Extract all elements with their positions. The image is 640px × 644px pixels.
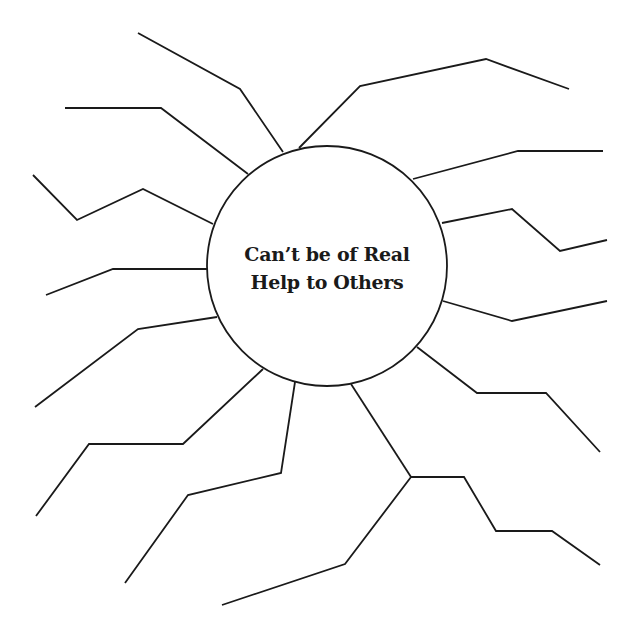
center-topic-line-1: Can’t be of Real xyxy=(207,240,447,268)
leg-left-1 xyxy=(33,175,213,224)
spider-map-diagram xyxy=(0,0,640,644)
leg-lower-left-1 xyxy=(35,317,217,407)
leg-upper-right-1 xyxy=(413,151,603,179)
leg-bottom-stem xyxy=(351,384,411,477)
leg-bottom-branch-left xyxy=(222,477,411,605)
center-topic-line-2: Help to Others xyxy=(207,268,447,296)
leg-upper-right-2 xyxy=(299,59,569,148)
leg-lower-left-2 xyxy=(36,369,263,516)
center-topic-label: Can’t be of Real Help to Others xyxy=(207,240,447,296)
leg-bottom-left xyxy=(125,382,295,583)
leg-right-2 xyxy=(442,209,607,251)
leg-lower-right xyxy=(417,347,600,452)
leg-left-2 xyxy=(46,269,207,295)
leg-right-1 xyxy=(443,301,607,321)
leg-bottom-branch-right xyxy=(411,477,600,565)
leg-upper-left-1 xyxy=(138,33,283,152)
leg-upper-left-2 xyxy=(65,108,248,174)
